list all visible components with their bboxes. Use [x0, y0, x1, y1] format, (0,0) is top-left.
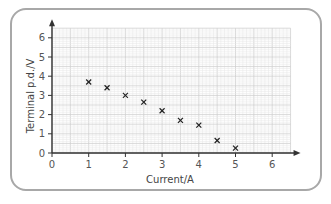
scatter-chart: 0123456 0123456 Current/A Terminal p.d./…	[0, 0, 331, 204]
y-tick-label: 5	[39, 52, 45, 63]
x-tick-label: 3	[159, 159, 165, 170]
x-tick-label: 6	[269, 159, 275, 170]
x-axis-arrow-icon	[294, 150, 301, 156]
y-tick-label: 1	[39, 128, 45, 139]
x-axis-label: Current/A	[146, 174, 194, 185]
y-axis-arrow-icon	[49, 19, 55, 26]
x-tick-label: 5	[232, 159, 238, 170]
x-tick-label: 0	[49, 159, 55, 170]
y-tick-label: 0	[39, 148, 45, 159]
y-tick-label: 4	[39, 71, 45, 82]
y-axis-label: Terminal p.d./V	[25, 58, 36, 134]
x-tick-label: 2	[122, 159, 128, 170]
y-tick-label: 3	[39, 90, 45, 101]
x-tick-label: 4	[196, 159, 202, 170]
x-tick-label: 1	[86, 159, 92, 170]
x-axis-ticks: 0123456	[49, 153, 276, 170]
grid	[52, 28, 291, 153]
y-tick-label: 6	[39, 32, 45, 43]
y-axis-ticks: 0123456	[39, 32, 52, 158]
y-tick-label: 2	[39, 109, 45, 120]
